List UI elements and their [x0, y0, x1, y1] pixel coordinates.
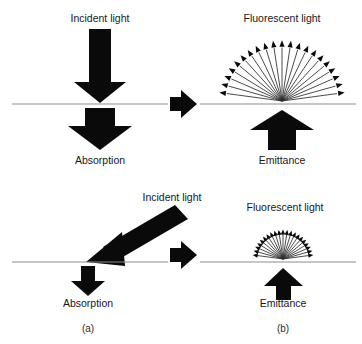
fluorescent-ray-arrowhead — [308, 253, 313, 257]
absorption-label-a-top: Absorption — [75, 154, 125, 166]
emittance-label-b-top: Emittance — [259, 154, 306, 166]
fluorescent-light-label-b-top: Fluorescent light — [243, 12, 320, 24]
panel-a-top-row: Incident light Absorption — [12, 12, 168, 166]
incident-light-arrow-a-top — [74, 29, 126, 103]
fluorescent-ray-arrowhead — [281, 230, 285, 235]
connector-arrow-top — [170, 90, 197, 118]
fluorescent-light-label-b-bottom: Fluorescent light — [246, 201, 323, 213]
panel-b-bottom-row: Fluorescent light Emittance (b) — [200, 201, 356, 334]
incident-light-label-a-bottom: Incident light — [143, 191, 202, 203]
fluorescent-ray-arrowhead — [307, 250, 312, 254]
panel-caption-a: (a) — [82, 323, 94, 334]
fluorescent-ray-arrowhead — [303, 46, 308, 53]
fluorescent-ray — [282, 50, 298, 101]
fluorescent-ray-arrowhead — [264, 43, 269, 50]
fluorescent-ray-arrowhead — [271, 41, 276, 48]
fluorescent-ray-arrowhead — [253, 253, 258, 257]
fluorescent-ray-arrowhead — [248, 50, 254, 57]
absorption-label-a-bottom: Absorption — [63, 297, 113, 309]
fluorescent-ray-arrowhead — [256, 46, 261, 53]
absorption-arrow-a-top — [68, 108, 132, 150]
absorption-arrow-a-bottom — [71, 266, 105, 296]
fluorescent-ray-arrowhead — [284, 230, 288, 235]
fluorescent-ray-arrowhead — [328, 68, 335, 74]
fluorescent-ray-arrowhead — [338, 91, 345, 96]
emittance-arrow-b-bottom — [264, 268, 303, 300]
panel-b-top-row: Fluorescent light Emittance — [200, 12, 356, 166]
fluorescence-diagram: Incident light Absorption Fluorescent li… — [0, 0, 362, 344]
fluorescent-ray-arrowhead — [221, 83, 228, 88]
panel-a-bottom-row: Incident light Absorption (a) — [12, 191, 202, 334]
panel-caption-b: (b) — [277, 323, 289, 334]
fluorescent-ray-arrowhead — [274, 231, 278, 236]
fluorescent-ray-arrowhead — [224, 76, 231, 81]
fluorescent-ray-arrowhead — [229, 68, 236, 74]
fluorescent-ray — [266, 50, 282, 101]
emittance-label-b-bottom: Emittance — [260, 297, 307, 309]
fluorescent-ray-arrowhead — [333, 76, 340, 81]
connector-arrow-bottom — [170, 241, 197, 269]
fluorescent-ray-arrowhead — [310, 50, 316, 57]
fluorescent-ray-arrowhead — [288, 231, 292, 236]
fluorescent-ray-arrowhead — [287, 41, 292, 48]
incident-light-label-a-top: Incident light — [71, 12, 130, 24]
fluorescent-ray-arrowhead — [254, 250, 259, 254]
fluorescent-ray-arrowhead — [295, 43, 300, 50]
fluorescent-ray-arrowhead — [219, 91, 226, 96]
fluorescent-ray-arrowhead — [279, 40, 284, 47]
emittance-arrow-b-top — [250, 110, 314, 150]
fluorescent-ray-fan-b-bottom — [253, 230, 314, 259]
fluorescent-ray-fan-b-top — [219, 40, 344, 101]
fluorescent-ray-arrowhead — [336, 83, 343, 88]
